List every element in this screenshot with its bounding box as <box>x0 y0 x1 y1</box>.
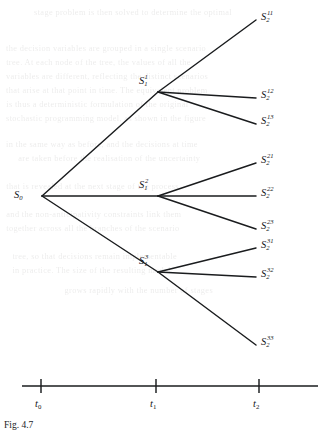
tree-edge <box>158 272 256 277</box>
tree-edge <box>158 196 256 229</box>
axis-label-t2: t2 <box>253 399 259 410</box>
node-label-S2_11: S211 <box>261 12 276 23</box>
axis-label-t0: t0 <box>35 399 41 410</box>
tree-edge <box>158 20 256 92</box>
node-label-S2_31: S231 <box>261 240 276 251</box>
node-label-S2_12: S212 <box>261 90 276 101</box>
node-label-S2_33: S233 <box>261 337 276 348</box>
node-label-S1_1: S11 <box>139 76 150 87</box>
tree-edge <box>158 248 256 272</box>
node-label-S2_21: S221 <box>261 155 276 166</box>
figure-caption: Fig. 4.7 <box>4 421 33 431</box>
node-label-S1_3: S13 <box>139 256 151 267</box>
node-label-S1_2: S12 <box>139 180 151 191</box>
tree-edge <box>158 272 256 345</box>
time-axis <box>22 379 318 393</box>
node-label-S0: S0 <box>14 190 23 201</box>
node-label-S2_13: S213 <box>261 116 276 127</box>
tree-edge <box>158 163 256 196</box>
node-label-S2_32: S232 <box>261 269 276 280</box>
axis-label-t1: t1 <box>150 399 156 410</box>
node-label-S2_22: S222 <box>261 188 276 199</box>
node-label-S2_23: S223 <box>261 221 276 232</box>
